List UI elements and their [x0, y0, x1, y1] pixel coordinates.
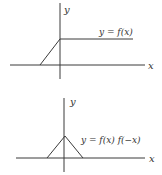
- top-graph: y x y = f(x): [10, 3, 154, 79]
- bottom-x-label: x: [149, 153, 155, 164]
- bottom-triangle-curve: [47, 136, 83, 158]
- bottom-graph: y x y = f(x) f(−x): [16, 96, 155, 172]
- top-y-label: y: [63, 4, 70, 15]
- diagram-canvas: y x y = f(x) y x y = f(x) f(−x): [0, 0, 162, 175]
- top-ramp-curve: [40, 39, 133, 65]
- bottom-curve-label: y = f(x) f(−x): [80, 135, 141, 145]
- bottom-y-label: y: [69, 96, 76, 107]
- top-x-label: x: [148, 60, 154, 71]
- top-curve-label: y = f(x): [98, 27, 133, 37]
